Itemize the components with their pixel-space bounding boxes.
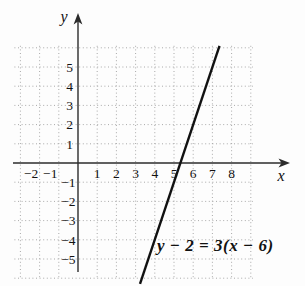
x-axis-label: x [276, 167, 284, 184]
y-tick-label: 3 [66, 98, 73, 113]
x-tick-label: −1 [43, 166, 57, 181]
x-tick-label: 5 [171, 166, 178, 181]
x-tick-label: −2 [24, 166, 38, 181]
y-axis-label: y [58, 8, 68, 26]
axes [13, 13, 290, 272]
y-tick-label: −2 [61, 194, 75, 209]
y-tick-label: 5 [66, 60, 73, 75]
x-tick-label: 7 [209, 166, 216, 181]
y-tick-label: −3 [61, 213, 76, 228]
y-tick-label: −4 [61, 233, 76, 248]
equation-label: y − 2 = 3(x − 6) [157, 236, 274, 256]
y-tick-label: 4 [66, 79, 73, 94]
x-tick-label: 1 [94, 166, 101, 181]
x-tick-label: 6 [190, 166, 197, 181]
x-tick-label: 8 [228, 166, 235, 181]
y-tick-label: −1 [61, 175, 75, 190]
graph-figure: −2−11234567854321−1−2−3−4−5xy y − 2 = 3(… [0, 0, 305, 286]
y-tick-label: 2 [66, 117, 73, 132]
x-tick-label: 2 [113, 166, 120, 181]
x-tick-label: 4 [151, 166, 158, 181]
y-tick-label: −5 [61, 252, 76, 267]
y-tick-label: 1 [66, 137, 73, 152]
x-tick-label: 3 [132, 166, 139, 181]
